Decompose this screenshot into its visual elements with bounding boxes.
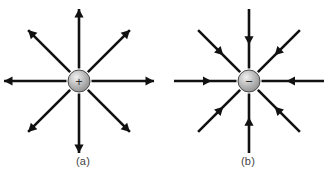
arrowhead-east	[146, 76, 155, 85]
field-line-north-east	[88, 30, 130, 72]
charge-sign-positive: +	[75, 75, 82, 89]
field-line-south	[244, 94, 253, 154]
arrowhead-north	[74, 9, 83, 18]
electric-field-figure: + (a) − (b)	[0, 0, 331, 179]
arrowhead-west	[203, 76, 212, 85]
field-line-south-west	[198, 90, 240, 132]
field-line-north	[74, 9, 83, 69]
field-line-east	[92, 76, 155, 85]
arrowhead-east	[287, 76, 296, 85]
panel-a-diagram: +	[0, 0, 166, 179]
field-line-north	[244, 9, 253, 69]
arrowhead-west	[4, 76, 13, 85]
panel-b-diagram: −	[165, 0, 331, 179]
arrowhead-north	[244, 36, 253, 45]
panel-a-positive-charge: + (a)	[0, 0, 166, 179]
field-line-south	[74, 94, 83, 154]
field-line-west	[4, 76, 67, 85]
field-line-west	[174, 76, 237, 85]
charge-sign-negative: −	[245, 74, 253, 89]
field-line-east	[262, 76, 325, 85]
field-line-north-west	[198, 30, 240, 72]
panel-a-caption: (a)	[0, 155, 166, 168]
arrowhead-south	[74, 145, 83, 154]
panel-b-negative-charge: − (b)	[165, 0, 331, 179]
field-line-north-west	[28, 30, 70, 72]
field-line-south-east	[88, 90, 130, 132]
field-line-south-west	[28, 90, 70, 132]
field-line-north-east	[258, 30, 300, 72]
arrowhead-south	[244, 117, 253, 126]
field-line-south-east	[258, 90, 300, 132]
panel-b-caption: (b)	[165, 155, 331, 168]
